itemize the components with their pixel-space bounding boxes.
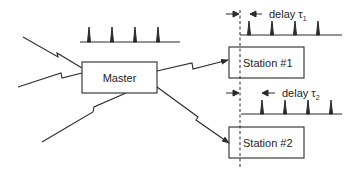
signal-to-station-1 [157, 60, 228, 71]
outgoing-signal-lines [157, 60, 229, 143]
incoming-signal-upper [23, 37, 82, 68]
station-2-pulse-train [241, 100, 342, 114]
delay-1-annotation [226, 11, 262, 17]
master-pulse-train [80, 27, 180, 42]
signal-to-station-2 [157, 87, 229, 143]
master-node: Master [82, 62, 157, 93]
station-2-label: Station #2 [243, 137, 293, 149]
master-label: Master [103, 72, 137, 84]
synchronization-diagram: Master delay τ1 Station #1 delay τ2 [0, 0, 359, 176]
station-1-pulse-train [240, 21, 342, 35]
incoming-signal-lower [42, 93, 126, 142]
delay-1-label: delay τ1 [269, 8, 307, 22]
station-1-label: Station #1 [243, 57, 293, 69]
delay-2-label: delay τ2 [282, 87, 320, 101]
incoming-signal-middle [18, 73, 82, 87]
delay-2-annotation [226, 90, 275, 96]
